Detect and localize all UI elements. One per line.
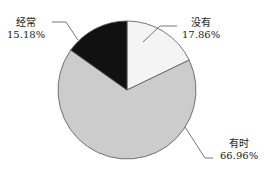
label-sometimes: 有时 66.96% [220,138,258,162]
leader-often [52,22,78,40]
label-never-name: 没有 [182,17,220,29]
label-often-pct: 15.18% [7,29,45,41]
label-sometimes-pct: 66.96% [220,150,258,162]
label-never-pct: 17.86% [182,29,220,41]
label-never: 没有 17.86% [182,17,220,41]
label-sometimes-name: 有时 [220,138,258,150]
leader-sometimes [185,127,213,158]
label-often: 经常 15.18% [7,17,45,41]
label-often-name: 经常 [7,17,45,29]
